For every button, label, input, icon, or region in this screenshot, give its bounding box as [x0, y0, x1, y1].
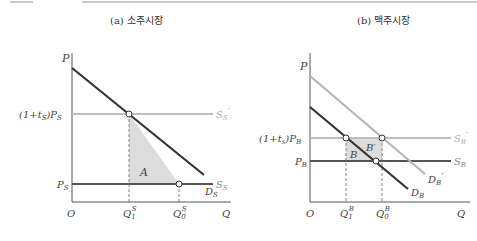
demand-label-b: D	[410, 187, 419, 198]
point-q0-taxed-b	[379, 135, 385, 141]
diagram-canvas: P (1+tS)PS PS SS′ SS DS A O Q Q1S Q0S P …	[0, 0, 477, 241]
q1-label-a: Q	[123, 208, 131, 219]
sup: S	[182, 205, 187, 213]
sub: B	[460, 161, 466, 169]
x-label-b: Q	[457, 208, 465, 219]
sub: S	[57, 114, 62, 122]
sub: 0	[181, 213, 186, 221]
origin-label-b: O	[306, 208, 314, 219]
panel-b: P (1+ts)PB PB SB′ SB DB′ DB B B′ O Q Q1B…	[259, 53, 470, 221]
sup: B	[384, 205, 390, 213]
svg-text:DB′: DB′	[427, 171, 444, 187]
point-q1-taxed-b	[343, 135, 349, 141]
svg-text:SS′: SS′	[216, 106, 231, 122]
tail: )P	[284, 133, 296, 144]
svg-text:(1+tS)PS: (1+tS)PS	[19, 109, 62, 122]
sub: 1	[131, 213, 135, 221]
svg-text:P: P	[61, 52, 70, 65]
svg-text:Q: Q	[457, 208, 465, 219]
svg-text:Q1S: Q1S	[123, 205, 137, 221]
area-label-b: B	[349, 149, 357, 160]
tail: )P	[45, 109, 57, 120]
panel-a: P (1+tS)PS PS SS′ SS DS A O Q Q1S Q0S	[19, 52, 231, 221]
svg-text:DB: DB	[410, 187, 424, 200]
sup: S	[132, 205, 137, 213]
sub: 1	[348, 213, 352, 221]
svg-text:Q0B: Q0B	[376, 205, 390, 221]
sub: B	[295, 138, 301, 146]
sub: B	[418, 192, 424, 200]
svg-text:B: B	[349, 149, 357, 160]
svg-text:SB: SB	[454, 156, 466, 169]
taxed-price-label-b: (1+t	[259, 133, 283, 144]
demand-shifted-label-b: D	[427, 174, 436, 185]
prime: ′	[228, 106, 231, 117]
q1-label-b: Q	[340, 208, 348, 219]
svg-text:B′: B′	[365, 142, 376, 153]
taxed-price-label-a: (1+t	[19, 109, 43, 120]
sub: B	[301, 161, 307, 169]
q0-label-b: Q	[376, 208, 384, 219]
sub: S	[64, 184, 69, 192]
svg-text:Q: Q	[222, 208, 230, 219]
svg-text:Q1B: Q1B	[340, 205, 354, 221]
svg-text:PB: PB	[294, 156, 307, 169]
sup: B	[348, 205, 354, 213]
equilibrium-a	[176, 181, 182, 187]
equilibrium-b	[373, 158, 379, 164]
x-label-a: Q	[222, 208, 230, 219]
svg-text:A: A	[139, 166, 148, 179]
y-label-a: P	[61, 52, 70, 65]
origin-label-a: O	[67, 208, 75, 219]
prime: ′	[466, 130, 469, 141]
svg-text:O: O	[67, 208, 75, 219]
svg-text:SB′: SB′	[454, 130, 469, 146]
area-label-a: A	[139, 166, 148, 179]
prime: ′	[441, 171, 444, 182]
svg-text:(1+ts)PB: (1+ts)PB	[259, 133, 301, 146]
sub: S	[213, 191, 218, 199]
svg-text:P: P	[299, 60, 308, 73]
svg-text:Q0S: Q0S	[173, 205, 187, 221]
y-label-b: P	[299, 60, 308, 73]
sub: S	[223, 184, 228, 192]
svg-text:PS: PS	[56, 179, 69, 192]
q0-label-a: Q	[173, 208, 181, 219]
equilibrium-taxed-a	[126, 111, 132, 117]
demand-label-a: D	[204, 186, 213, 197]
area-label-b-prime: B′	[365, 142, 376, 153]
sub: 0	[384, 213, 389, 221]
svg-text:O: O	[306, 208, 314, 219]
